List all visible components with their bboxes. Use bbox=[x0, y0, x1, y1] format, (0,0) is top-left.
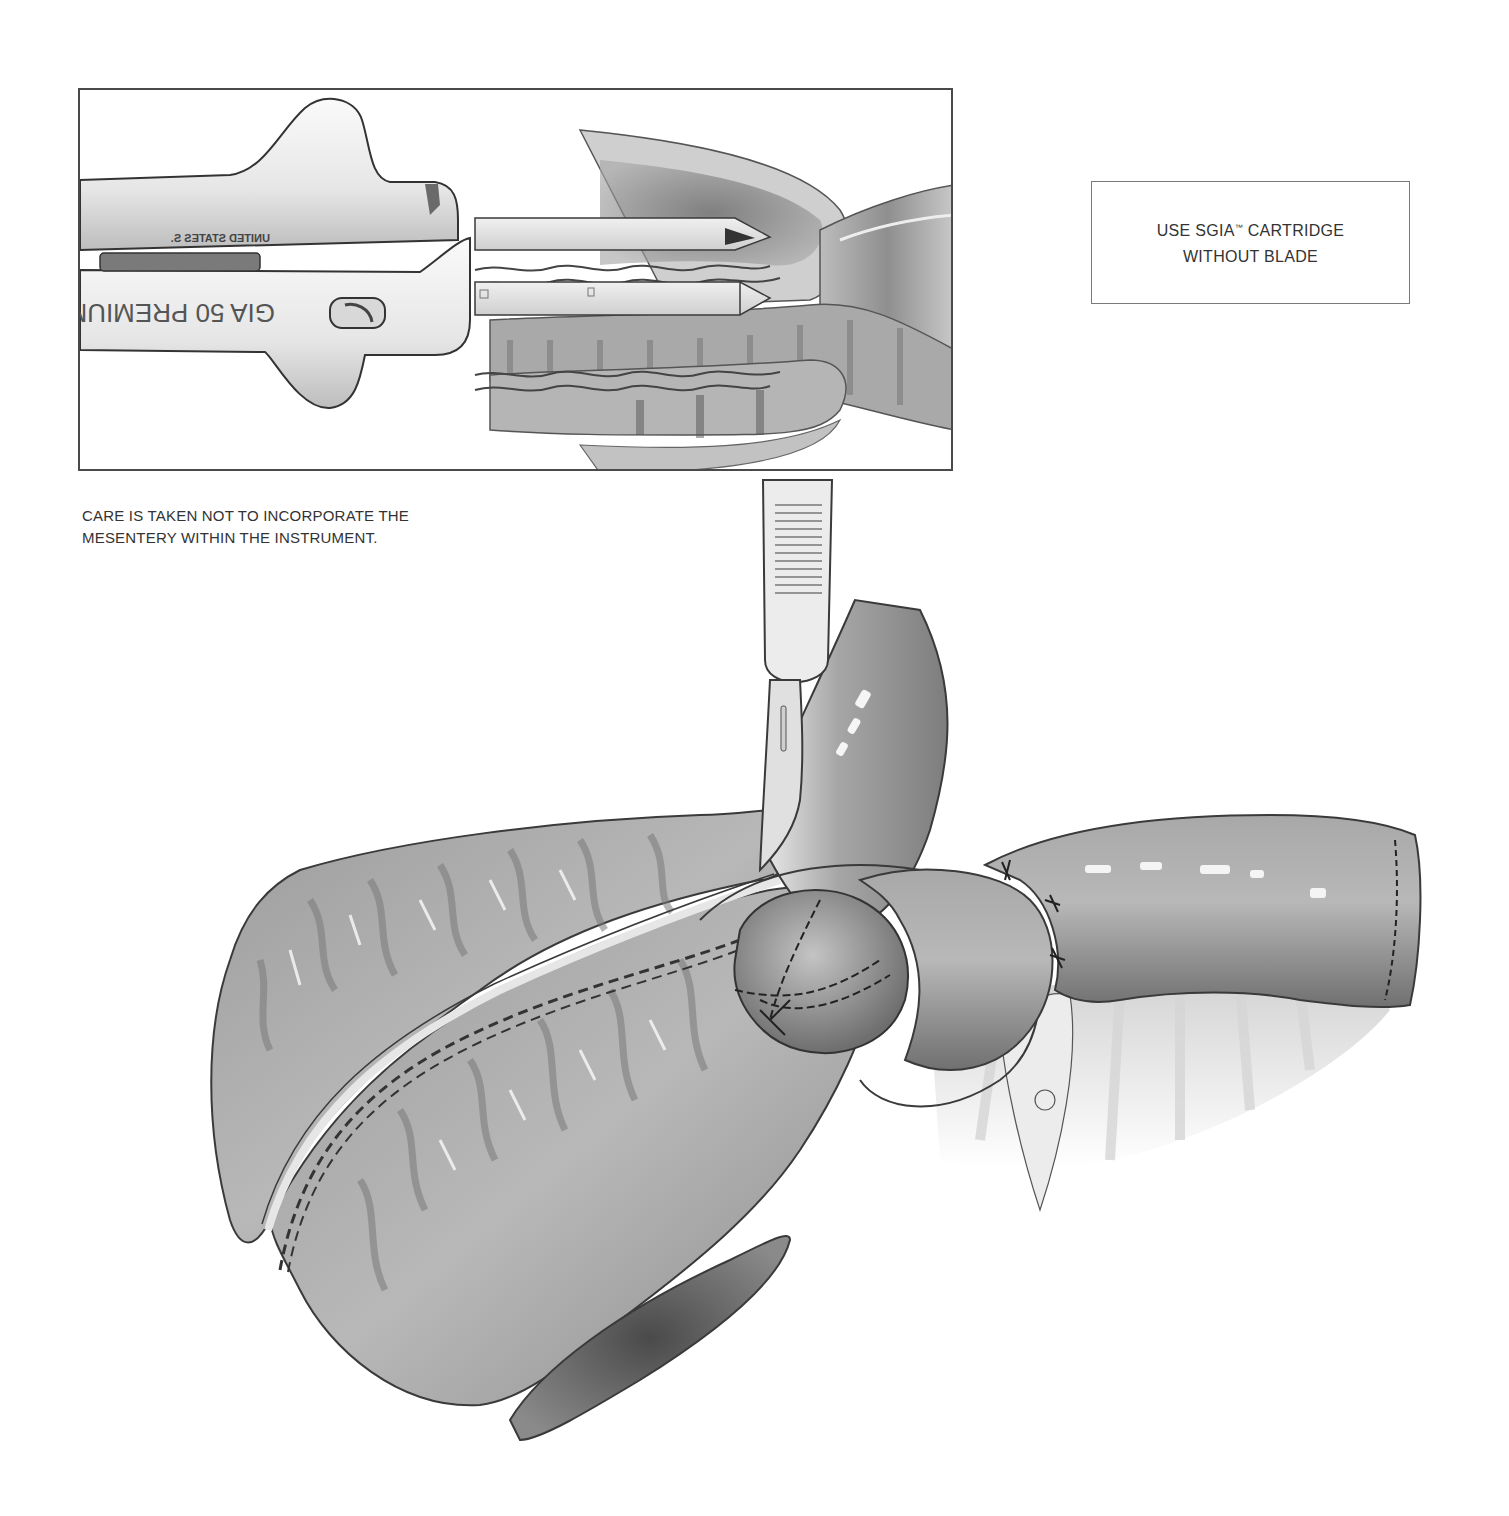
bowel-anastomosis-drawing bbox=[0, 470, 1509, 1516]
stapler-inset-drawing: UNITED STATES S. GIA 50 PREMIUM bbox=[80, 90, 953, 471]
main-surgical-illustration bbox=[0, 470, 1509, 1516]
trademark-symbol: ™ bbox=[1235, 223, 1243, 232]
note-line-1-prefix: USE SGIA bbox=[1157, 222, 1235, 239]
instrument-engraving-primary: GIA 50 PREMIUM bbox=[80, 298, 275, 328]
cartridge-note-box: USE SGIA™ CARTRIDGE WITHOUT BLADE bbox=[1091, 181, 1410, 304]
note-line-1: USE SGIA™ CARTRIDGE bbox=[1157, 215, 1345, 244]
stapled-pouch bbox=[734, 890, 908, 1053]
stapler-handle: UNITED STATES S. GIA 50 PREMIUM bbox=[80, 99, 470, 408]
stapler-inset-figure: UNITED STATES S. GIA 50 PREMIUM bbox=[78, 88, 953, 471]
note-line-2: WITHOUT BLADE bbox=[1183, 244, 1318, 270]
note-line-1-suffix: CARTRIDGE bbox=[1243, 222, 1344, 239]
instrument-engraving-secondary: UNITED STATES S. bbox=[171, 232, 270, 244]
